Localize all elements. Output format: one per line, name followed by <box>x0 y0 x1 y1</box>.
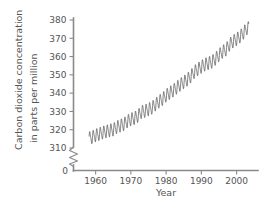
x-tick-label: 1960 <box>84 176 107 186</box>
y-axis-title-line1: Carbon dioxide concentration <box>13 10 24 150</box>
y-tick-label: 370 <box>49 34 66 44</box>
x-axis-tick-labels: 19601970198019902000 <box>84 176 248 186</box>
x-tick-label: 1970 <box>119 176 142 186</box>
chart-canvas: Carbon dioxide concentration in parts pe… <box>0 0 267 203</box>
y-tick-label: 380 <box>49 15 66 25</box>
co2-data-line <box>89 22 249 144</box>
y-axis-break-icon <box>70 147 78 167</box>
y-tick-label: 350 <box>49 70 66 80</box>
y-axis-zero-label: 0 <box>62 166 68 176</box>
x-tick-label: 1980 <box>155 176 178 186</box>
y-tick-label: 360 <box>49 52 66 62</box>
y-tick-label: 310 <box>49 143 66 153</box>
y-tick-label: 330 <box>49 107 66 117</box>
x-tick-label: 1990 <box>190 176 213 186</box>
y-tick-label: 320 <box>49 125 66 135</box>
y-axis-title: Carbon dioxide concentration in parts pe… <box>13 10 39 150</box>
y-tick-label: 340 <box>49 88 66 98</box>
y-axis-tick-labels: 310320330340350360370380 <box>49 15 66 153</box>
co2-concentration-chart: Carbon dioxide concentration in parts pe… <box>0 0 267 203</box>
x-axis-title: Year <box>155 187 176 198</box>
x-tick-label: 2000 <box>225 176 248 186</box>
y-axis-title-line2: in parts per million <box>28 53 39 143</box>
